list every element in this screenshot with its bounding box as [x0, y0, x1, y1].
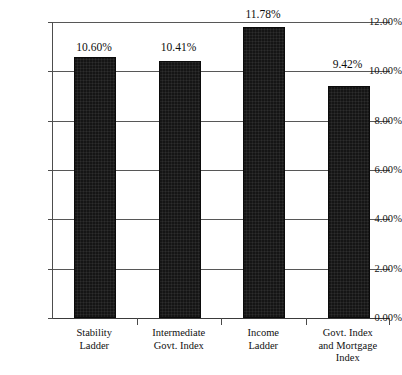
x-tick-mark-2	[221, 318, 222, 325]
category-label-govt-index-and-mortgage-index: Govt. Index and Mortgage Index	[306, 327, 391, 365]
y-tick-label-6: 6.00%	[356, 164, 402, 175]
bar-value-govt-index-and-mortgage-index: 9.42%	[308, 58, 388, 71]
y-tick-mark-2	[48, 269, 53, 270]
x-tick-mark-4	[389, 318, 390, 325]
category-label-intermediate-govt-index: Intermediate Govt. Index	[137, 327, 222, 352]
bar-chart: 12.00% 10.00% 8.00% 6.00% 4.00% 2.00% 0.…	[0, 0, 402, 375]
x-tick-mark-3	[306, 318, 307, 325]
category-label-income-ladder: Income Ladder	[221, 327, 306, 352]
bar-stability-ladder	[74, 57, 116, 319]
bar-value-income-ladder: 11.78%	[223, 8, 303, 21]
y-tick-mark-12	[48, 22, 53, 23]
y-tick-label-4: 4.00%	[356, 213, 402, 224]
bar-intermediate-govt-index	[159, 61, 201, 318]
bar-value-intermediate-govt-index: 10.41%	[139, 41, 219, 54]
bar-value-stability-ladder: 10.60%	[54, 41, 134, 54]
y-tick-label-8: 8.00%	[356, 115, 402, 126]
y-tick-mark-10	[48, 71, 53, 72]
y-tick-mark-0	[48, 318, 53, 319]
x-tick-mark-1	[137, 318, 138, 325]
category-label-stability-ladder: Stability Ladder	[52, 327, 137, 352]
gridline-12	[52, 22, 390, 23]
bar-income-ladder	[243, 27, 285, 318]
y-tick-mark-6	[48, 170, 53, 171]
y-tick-mark-4	[48, 219, 53, 220]
y-tick-mark-8	[48, 121, 53, 122]
y-tick-label-2: 2.00%	[356, 263, 402, 274]
y-tick-label-0: 0.00%	[356, 312, 402, 323]
y-tick-label-12: 12.00%	[356, 16, 402, 27]
